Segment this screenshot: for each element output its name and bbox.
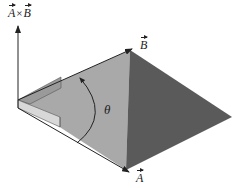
label-vector-b-text: B	[140, 39, 147, 51]
label-angle-theta: θ	[104, 102, 110, 118]
label-vector-a: A	[136, 172, 143, 184]
label-a-cross-b-left: A	[8, 7, 15, 19]
label-a-cross-b: A×B	[8, 7, 31, 19]
label-a-cross-b-right: B	[24, 7, 31, 19]
cross-product-diagram	[0, 0, 243, 188]
label-cross-operator: ×	[16, 7, 22, 19]
parallelogram-dark-face	[126, 50, 232, 170]
label-vector-b: B	[140, 39, 147, 51]
label-vector-a-text: A	[136, 172, 143, 184]
